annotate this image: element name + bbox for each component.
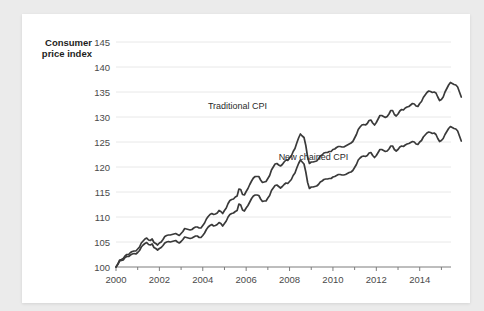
x-axis-tick-label: 2014 — [409, 274, 430, 285]
y-axis-tick-labels: 100105110115120125130135140145 — [94, 37, 110, 273]
y-axis-tick-label: 140 — [94, 62, 110, 73]
x-axis-tick-label: 2004 — [192, 274, 213, 285]
cpi-line-chart: 100105110115120125130135140145 200020022… — [0, 0, 484, 311]
x-axis-tick-label: 2012 — [366, 274, 387, 285]
y-axis-tick-label: 125 — [94, 137, 110, 148]
chart-svg: 100105110115120125130135140145 200020022… — [0, 0, 484, 311]
series-line-traditional-cpi — [116, 83, 461, 268]
y-axis-tick-label: 145 — [94, 37, 110, 48]
x-axis-tick-label: 2006 — [236, 274, 257, 285]
annotation-traditional-cpi: Traditional CPI — [208, 101, 267, 111]
x-axis-tick-labels: 20002002200420062008201020122014 — [105, 274, 430, 285]
y-axis-title-line2: price index — [42, 48, 93, 59]
x-axis-tick-label: 2000 — [105, 274, 126, 285]
y-axis-tick-label: 100 — [94, 262, 110, 273]
y-axis-tick-label: 110 — [95, 212, 110, 223]
series-lines-group — [116, 83, 461, 268]
y-axis-tick-label: 120 — [94, 162, 110, 173]
x-axis-ticks — [116, 267, 441, 271]
x-axis-tick-label: 2010 — [322, 274, 343, 285]
series-annotations: Traditional CPINew chained CPI — [208, 101, 348, 162]
x-axis-tick-label: 2002 — [149, 274, 170, 285]
annotation-new-chained-cpi: New chained CPI — [279, 152, 349, 162]
series-line-new-chained-cpi — [116, 127, 461, 268]
y-axis-tick-label: 105 — [94, 237, 110, 248]
y-axis-tick-label: 115 — [95, 187, 110, 198]
x-axis-tick-label: 2008 — [279, 274, 300, 285]
y-axis-title-line1: Consumer — [45, 37, 92, 48]
gridlines-group — [116, 42, 451, 242]
y-axis-tick-label: 135 — [94, 87, 110, 98]
y-axis-tick-label: 130 — [94, 112, 110, 123]
